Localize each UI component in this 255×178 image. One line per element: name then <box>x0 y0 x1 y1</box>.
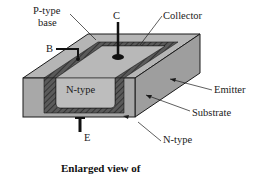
n-type-outer-label: N-type <box>163 134 192 145</box>
collector-terminal-label: C <box>113 10 120 21</box>
substrate-label: Substrate <box>192 107 231 118</box>
emitter-terminal-label: E <box>84 132 90 143</box>
n-type-inner-label: N-type <box>66 84 95 95</box>
p-type-base-label-1: P-type <box>33 5 60 16</box>
collector-label: Collector <box>163 10 202 21</box>
emitter-label: Emitter <box>214 84 246 95</box>
p-type-base-label-2: base <box>38 17 57 28</box>
base-terminal-label: B <box>46 43 53 54</box>
caption: Enlarged view of <box>61 162 140 174</box>
